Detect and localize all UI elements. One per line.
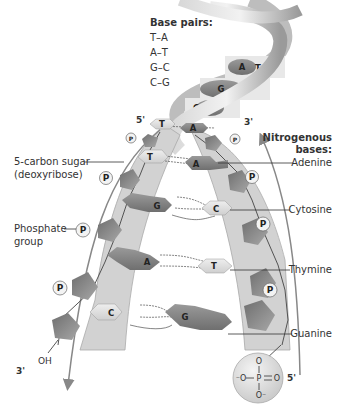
base-label: C <box>213 204 219 214</box>
phosphate-icon: P <box>260 219 267 229</box>
sugar-pentagon <box>52 313 80 340</box>
guanine-label: Guanine <box>290 328 332 339</box>
sugar-label-line1: 5-carbon sugar <box>14 156 91 167</box>
phosphate-icon: P <box>80 225 87 235</box>
base-label: T <box>147 152 153 162</box>
thymine-label: Thymine <box>288 264 332 275</box>
sugar-pentagon <box>72 272 98 300</box>
phosphate-icon: P <box>129 135 134 142</box>
helix-base-a: A <box>239 62 246 72</box>
base-label: T <box>211 261 217 271</box>
phosphate-icon: P <box>57 283 64 293</box>
base-label: A <box>144 257 151 267</box>
base-pair-item: G–C <box>150 62 170 73</box>
base-label: A <box>190 123 197 133</box>
phosphate-detail: O P ⁻O O O⁻ <box>233 345 283 403</box>
base-pair-item: T–A <box>149 32 168 43</box>
base-pairs-title: Base pairs: <box>150 17 213 28</box>
right-5-prime-label: 5' <box>287 373 296 383</box>
oxygen-right: O <box>274 374 280 383</box>
base-label: G <box>154 201 161 211</box>
oxygen-left: ⁻O <box>236 374 247 383</box>
base-label: G <box>182 312 189 322</box>
phosphate-icon: P <box>233 136 238 143</box>
phosphate-icon: P <box>267 285 274 295</box>
sugar-label-line2: (deoxyribose) <box>14 169 83 180</box>
left-5-prime-label: 5' <box>136 115 145 125</box>
dna-structure-diagram: A T G C C Base pairs: T–A A–T G–C C–G 5'… <box>0 0 344 404</box>
phosphate-label-group: Phosphate group <box>14 223 76 247</box>
phosphate-icon: P <box>249 172 256 182</box>
base-pair-item: A–T <box>150 47 169 58</box>
right-3-prime-label: 3' <box>244 117 253 127</box>
phosphate-label-line1: Phosphate <box>14 223 67 234</box>
base-pair-item: C–G <box>150 77 170 88</box>
phosphorus-atom: P <box>257 374 262 383</box>
bases-title-line2: bases: <box>295 144 332 155</box>
left-3-prime-label: 3' <box>16 366 25 376</box>
hydroxyl-label: OH <box>38 356 52 366</box>
phosphate-icon: P <box>103 173 110 183</box>
base-label: T <box>159 119 165 129</box>
base-label: A <box>193 159 200 169</box>
base-pairs-legend: Base pairs: T–A A–T G–C C–G <box>149 17 213 88</box>
cytosine-label: Cytosine <box>289 204 332 215</box>
base-label: C <box>108 308 114 318</box>
oxygen-bottom: O⁻ <box>256 391 267 400</box>
bases-title-line1: Nitrogenous <box>263 132 332 143</box>
oxygen-top: O <box>256 357 262 366</box>
phosphate-label-line2: group <box>14 236 43 247</box>
adenine-label: Adenine <box>291 157 332 168</box>
